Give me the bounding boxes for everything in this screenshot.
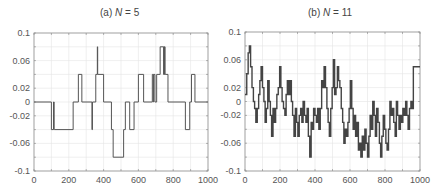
x-tick-label: 1000 <box>410 175 430 185</box>
y-tick-label: -0.02 <box>220 110 241 120</box>
x-tick-label: 200 <box>272 175 287 185</box>
y-tick-label: -0.02 <box>9 111 30 121</box>
panel-b-plot: 020040060080010000.10.060.020-0.02-0.06-… <box>220 27 430 185</box>
x-tick-label: 600 <box>342 175 357 185</box>
y-tick-label: -0.06 <box>220 138 241 148</box>
y-tick-label: -0.1 <box>14 166 30 176</box>
y-tick-label: -0.1 <box>225 166 241 176</box>
x-tick-label: 800 <box>377 175 392 185</box>
x-tick-label: 0 <box>242 175 247 185</box>
y-tick-label: 0 <box>236 97 241 107</box>
y-tick-label: 0 <box>25 97 30 107</box>
y-tick-label: 0.02 <box>223 83 241 93</box>
x-tick-label: 0 <box>31 175 36 185</box>
y-tick-label: 0.02 <box>12 83 30 93</box>
y-tick-label: 0.06 <box>223 55 241 65</box>
x-tick-label: 400 <box>307 175 322 185</box>
x-tick-label: 1000 <box>198 175 218 185</box>
y-tick-label: 0.1 <box>17 28 30 38</box>
y-tick-label: -0.06 <box>9 138 30 148</box>
x-tick-label: 600 <box>131 175 146 185</box>
y-tick-label: 0.06 <box>12 56 30 66</box>
panel-a-plot: 020040060080010000.10.060.020-0.02-0.06-… <box>9 28 218 185</box>
x-tick-label: 400 <box>96 175 111 185</box>
y-tick-label: 0.1 <box>228 27 241 37</box>
chart-canvas: 020040060080010000.10.060.020-0.02-0.06-… <box>0 0 438 196</box>
x-tick-label: 200 <box>61 175 76 185</box>
x-tick-label: 800 <box>166 175 181 185</box>
